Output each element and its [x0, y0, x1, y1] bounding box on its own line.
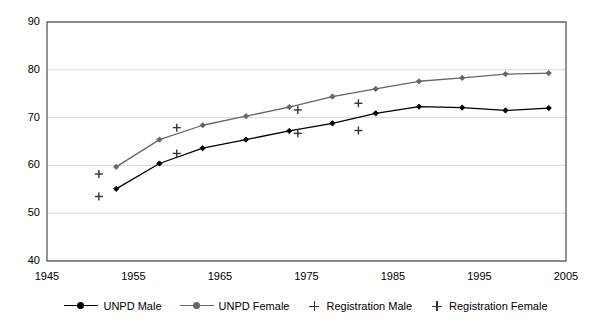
legend-label: Registration Male [326, 300, 412, 312]
y-tick-40: 40 [7, 254, 40, 266]
series-line-1 [116, 73, 549, 167]
x-tick-2005: 2005 [541, 270, 591, 282]
chart-legend: UNPD MaleUNPD FemaleRegistration MaleReg… [0, 300, 612, 312]
line-chart: 405060708090 194519551965197519851995200… [0, 0, 612, 331]
data-point-marker [330, 121, 335, 126]
data-point-marker [200, 123, 205, 128]
y-tick-70: 70 [7, 111, 40, 123]
plot-border [47, 22, 566, 261]
plus-icon-vertical-bar [314, 301, 315, 311]
data-point-marker [503, 72, 508, 77]
data-point-marker [330, 94, 335, 99]
legend-label: UNPD Male [103, 300, 161, 312]
data-point-marker [200, 146, 205, 151]
y-tick-80: 80 [7, 63, 40, 75]
legend-diamond-icon [77, 302, 84, 309]
data-point-marker [173, 124, 181, 132]
data-point-marker [416, 79, 421, 84]
y-tick-90: 90 [7, 15, 40, 27]
legend-line-marker-icon [180, 301, 214, 311]
legend-plus-marker-icon [430, 300, 444, 312]
legend-item-1[interactable]: UNPD Female [180, 300, 290, 312]
legend-plus-marker-icon [307, 300, 321, 312]
x-tick-1965: 1965 [195, 270, 245, 282]
data-point-marker [546, 71, 551, 76]
x-tick-1945: 1945 [22, 270, 72, 282]
legend-label: Registration Female [449, 300, 547, 312]
data-point-marker [503, 108, 508, 113]
series-line-0 [116, 107, 549, 189]
data-point-marker [373, 86, 378, 91]
data-point-marker [95, 192, 103, 200]
data-point-marker [373, 111, 378, 116]
data-point-marker [460, 105, 465, 110]
legend-item-2[interactable]: Registration Male [307, 300, 412, 312]
y-tick-60: 60 [7, 158, 40, 170]
data-point-marker [287, 128, 292, 133]
legend-diamond-icon [193, 302, 200, 309]
legend-line-marker-icon [64, 301, 98, 311]
data-point-marker [546, 105, 551, 110]
data-point-marker [287, 104, 292, 109]
data-point-marker [354, 99, 362, 107]
plus-icon-vertical-bar [436, 301, 437, 311]
data-point-marker [95, 170, 103, 178]
legend-label: UNPD Female [219, 300, 290, 312]
x-tick-1955: 1955 [109, 270, 159, 282]
data-point-marker [354, 127, 362, 135]
legend-item-3[interactable]: Registration Female [430, 300, 547, 312]
x-tick-1985: 1985 [368, 270, 418, 282]
x-tick-1975: 1975 [282, 270, 332, 282]
data-point-marker [416, 104, 421, 109]
data-point-marker [294, 106, 302, 114]
x-tick-1995: 1995 [455, 270, 505, 282]
y-tick-50: 50 [7, 206, 40, 218]
data-point-marker [460, 75, 465, 80]
legend-item-0[interactable]: UNPD Male [64, 300, 161, 312]
data-point-marker [243, 137, 248, 142]
